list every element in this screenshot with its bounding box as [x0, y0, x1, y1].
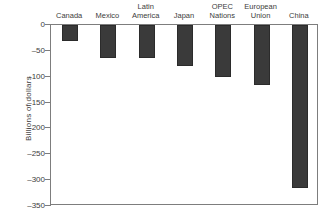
plot-area [50, 24, 318, 205]
x-axis-tick-label: Latin America [132, 3, 160, 20]
y-axis-tick-mark [45, 205, 51, 206]
y-axis-tick-label: –200 [5, 123, 45, 132]
y-axis-tick-label: –50 [5, 45, 45, 54]
bar [177, 25, 193, 66]
x-axis-tick-label: China [289, 12, 309, 21]
x-axis-tick-label: European Union [244, 3, 277, 20]
x-axis-tick-label: OPEC Nations [210, 3, 235, 20]
bar [254, 25, 270, 85]
y-axis-title: Billions of dollars [24, 34, 33, 184]
y-axis-tick-label: –250 [5, 149, 45, 158]
y-axis-tick-label: –300 [5, 175, 45, 184]
bar [292, 25, 308, 188]
y-axis-tick-label: –350 [5, 201, 45, 210]
bar [62, 25, 78, 41]
y-axis-tick-label: 0 [5, 20, 45, 29]
bar [100, 25, 116, 58]
chart-figure: Billions of dollars 0–50–100–150–200–250… [0, 0, 326, 217]
bar [139, 25, 155, 58]
y-axis-tick-label: –150 [5, 97, 45, 106]
x-axis-tick-label: Mexico [96, 12, 120, 21]
x-axis-tick-label: Canada [56, 12, 82, 21]
y-axis-tick-label: –100 [5, 71, 45, 80]
x-axis-tick-label: Japan [174, 12, 194, 21]
bar [215, 25, 231, 77]
